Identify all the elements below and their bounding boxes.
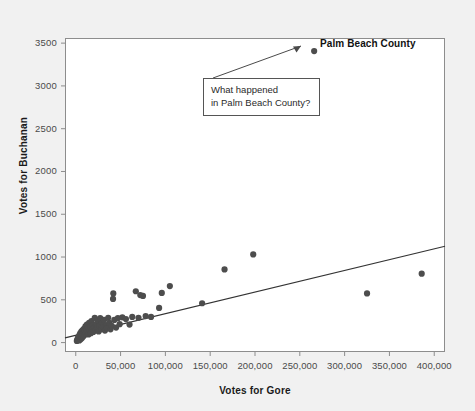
y-tick-label: 0 xyxy=(23,337,57,348)
x-axis-title: Votes for Gore xyxy=(65,385,445,396)
annotation-line-1: What happened xyxy=(211,84,313,97)
y-tick-label: 500 xyxy=(23,294,57,305)
outlier-label: Palm Beach County xyxy=(320,38,416,49)
y-tick-label: 3000 xyxy=(23,80,57,91)
y-axis-title: Votes for Buchanan xyxy=(18,106,29,226)
y-tick-label: 1000 xyxy=(23,251,57,262)
x-tick-label: 400,000 xyxy=(404,360,464,371)
annotation-line-2: in Palm Beach County? xyxy=(211,97,313,110)
x-axis-ticks xyxy=(76,352,434,356)
scatter-plot-figure: 0500100015002000250030003500 050,000100,… xyxy=(0,0,475,411)
y-tick-label: 3500 xyxy=(23,37,57,48)
annotation-callout: What happened in Palm Beach County? xyxy=(203,78,320,116)
